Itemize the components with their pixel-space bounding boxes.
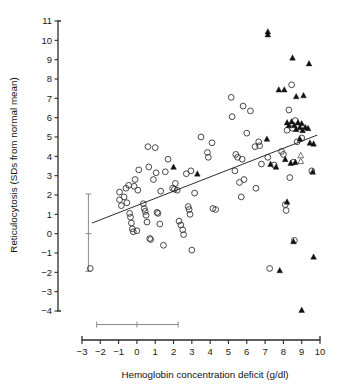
data-point-circle — [240, 103, 246, 109]
data-point-triangle-filled — [281, 87, 287, 92]
data-point-circle — [144, 219, 150, 225]
y-axis-tick-label: 0 — [47, 228, 52, 239]
data-point-circle — [161, 242, 167, 248]
x-axis-tick-label: 8 — [281, 346, 286, 357]
data-point-circle — [198, 134, 204, 140]
y-axis-tick-label: 5 — [47, 131, 52, 142]
y-axis-tick-label: 11 — [42, 15, 52, 26]
x-axis-tick-label: 3 — [189, 346, 194, 357]
data-point-circle — [127, 210, 133, 216]
data-point-circle — [136, 167, 142, 173]
data-point-triangle-filled — [264, 136, 270, 141]
x-axis-tick-label: 5 — [226, 346, 231, 357]
x-axis-tick-label: −2 — [95, 346, 106, 357]
data-point-circle — [129, 220, 135, 226]
x-axis-tick-label: −1 — [113, 346, 124, 357]
data-point-circle — [121, 194, 127, 200]
data-point-circle — [189, 247, 195, 253]
data-point-triangle-filled — [290, 55, 296, 60]
data-point-triangle-filled — [171, 164, 177, 169]
data-point-triangle-filled — [299, 307, 305, 312]
y-axis-line — [58, 21, 61, 311]
data-point-circle — [284, 127, 290, 133]
y-axis-tick-label: 6 — [47, 112, 52, 123]
data-points — [87, 29, 316, 313]
data-point-circle — [145, 144, 151, 150]
data-point-circle — [153, 170, 159, 176]
data-point-circle — [287, 175, 293, 181]
data-point-triangle-filled — [293, 93, 299, 98]
data-point-circle — [228, 94, 234, 100]
data-point-circle — [232, 168, 238, 174]
y-axis-tick-label: 4 — [47, 151, 52, 162]
x-axis-tick-label: 2 — [171, 346, 176, 357]
y-axis-tick-label: 10 — [41, 35, 52, 46]
data-point-circle — [248, 108, 254, 114]
x-axis-tick-label: −3 — [77, 346, 88, 357]
data-point-triangle-filled — [292, 159, 298, 164]
y-axis-title: Reticulocytosis (SDs from normal mean) — [8, 77, 19, 252]
data-point-triangle-open — [298, 158, 304, 163]
data-point-circle — [128, 214, 134, 220]
data-point-triangle-filled — [311, 254, 317, 259]
data-point-triangle-filled — [277, 267, 283, 272]
data-point-triangle-filled — [306, 61, 312, 66]
y-axis-tick-label: 2 — [47, 189, 52, 200]
data-point-triangle-filled — [301, 92, 307, 97]
data-point-circle — [135, 187, 141, 193]
data-point-circle — [151, 177, 157, 183]
data-point-circle — [259, 161, 265, 167]
x-axis-tick-label: 4 — [208, 346, 213, 357]
x-axis-title: Hemoglobin concentration deficit (g/dl) — [121, 369, 288, 380]
data-point-triangle-filled — [276, 87, 282, 92]
y-axis-tick-label: −1 — [41, 247, 52, 258]
data-point-triangle-filled — [268, 161, 274, 166]
data-point-circle — [152, 145, 158, 151]
y-axis-tick-label: −3 — [41, 286, 52, 297]
data-point-circle — [158, 188, 164, 194]
x-axis-tick-label: 0 — [134, 346, 139, 357]
data-point-circle — [289, 82, 295, 88]
data-point-circle — [192, 190, 198, 196]
y-axis-tick-label: −2 — [41, 267, 52, 278]
data-point-triangle-open — [298, 152, 304, 157]
data-point-circle — [209, 140, 215, 146]
reference-error-bars — [85, 194, 178, 327]
data-point-circle — [238, 194, 244, 200]
x-axis-tick-label: 10 — [315, 346, 326, 357]
y-axis-tick-label: 9 — [47, 54, 52, 65]
x-axis-tick-label: 9 — [299, 346, 304, 357]
data-point-triangle-filled — [273, 164, 279, 169]
data-point-triangle-filled — [194, 171, 200, 176]
data-point-circle — [188, 168, 194, 174]
data-point-circle — [124, 200, 130, 206]
data-point-circle — [162, 169, 168, 175]
data-point-circle — [253, 185, 259, 191]
data-point-circle — [146, 164, 152, 170]
y-axis-tick-label: 8 — [47, 73, 52, 84]
data-point-circle — [118, 203, 124, 209]
data-point-circle — [283, 208, 289, 214]
data-point-circle — [286, 107, 292, 113]
data-point-circle — [229, 114, 235, 120]
x-axis-tick-label: 1 — [153, 346, 158, 357]
y-axis-tick-label: 7 — [47, 93, 52, 104]
y-axis: −4−3−2−101234567891011 — [41, 15, 61, 316]
data-point-circle — [172, 181, 178, 187]
data-point-circle — [241, 177, 247, 183]
reticulocytosis-scatter-chart: −4−3−2−101234567891011 −3−2−101234567891… — [0, 0, 342, 385]
data-point-circle — [157, 221, 163, 227]
x-axis-line — [82, 336, 320, 340]
data-point-circle — [267, 266, 273, 272]
data-point-circle — [256, 139, 262, 145]
chart-svg: −4−3−2−101234567891011 −3−2−101234567891… — [0, 0, 342, 385]
x-axis-tick-label: 7 — [262, 346, 267, 357]
data-point-circle — [244, 130, 250, 136]
y-axis-tick-label: 3 — [47, 170, 52, 181]
data-point-triangle-filled — [289, 119, 295, 124]
y-axis-tick-label: −4 — [41, 305, 52, 316]
data-point-circle — [165, 156, 171, 162]
data-point-circle — [143, 212, 149, 218]
x-axis: −3−2−1012345678910 — [77, 336, 326, 357]
x-axis-tick-label: 6 — [244, 346, 249, 357]
